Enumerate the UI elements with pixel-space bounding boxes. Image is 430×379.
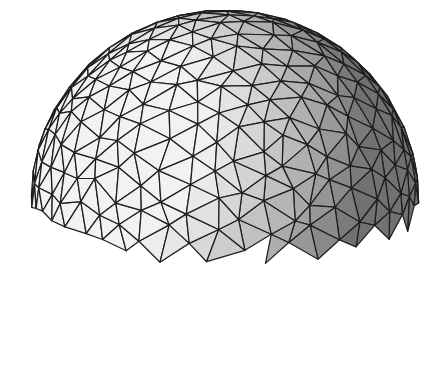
- mesh-face: [389, 212, 402, 240]
- geodesic-dome-mesh: [0, 0, 430, 379]
- figure-canvas: [0, 0, 430, 379]
